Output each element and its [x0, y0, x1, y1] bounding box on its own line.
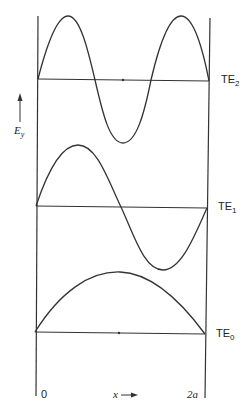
te0-label: TE0	[216, 327, 235, 342]
mode-index: 2	[235, 79, 239, 88]
ey-label: Ey	[14, 124, 24, 139]
x-axis-label: x	[113, 388, 118, 400]
te1-label: TE1	[218, 200, 237, 215]
te0-curve	[35, 272, 205, 334]
x-origin-label: 0	[41, 388, 47, 400]
center-tick	[122, 79, 124, 81]
mode-index: 0	[230, 333, 234, 342]
ey-arrowhead-icon	[18, 93, 23, 101]
center-tick	[118, 332, 120, 334]
ey-main: E	[14, 124, 21, 136]
mode-diagram	[0, 0, 251, 413]
te2-label: TE2	[221, 73, 240, 88]
x-end-label: 2a	[187, 388, 198, 400]
ey-sub: y	[21, 130, 25, 139]
mode-name: TE	[221, 73, 235, 85]
mode-index: 1	[232, 206, 236, 215]
mode-name: TE	[216, 327, 230, 339]
x-arrowhead-icon	[131, 393, 138, 398]
mode-name: TE	[218, 200, 232, 212]
